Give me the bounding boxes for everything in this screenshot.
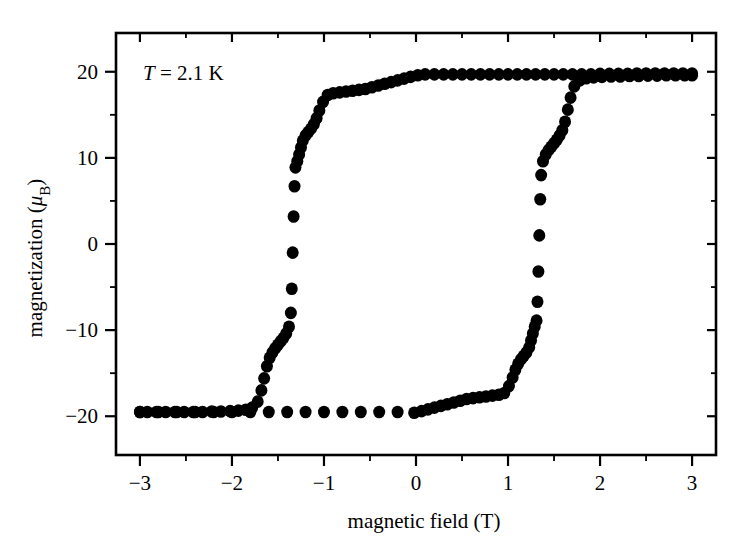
data-point	[171, 406, 183, 419]
data-point	[134, 406, 146, 419]
data-point	[535, 169, 547, 182]
data-point	[287, 246, 299, 259]
data-point	[263, 406, 275, 419]
data-point	[534, 193, 546, 206]
x-axis-title: magnetic field (T)	[348, 509, 501, 533]
temperature-annotation: T = 2.1 K	[143, 61, 224, 85]
data-series-0	[134, 67, 698, 418]
data-point	[300, 406, 312, 419]
x-tick-label: 0	[411, 471, 422, 495]
data-point	[318, 406, 330, 419]
data-point	[533, 229, 545, 242]
data-point	[392, 406, 404, 419]
x-tick-label: −1	[313, 471, 335, 495]
y-tick-label: −10	[65, 318, 98, 342]
data-point	[559, 115, 571, 128]
data-point	[288, 210, 300, 223]
x-axis-ticks	[140, 33, 692, 466]
magnetization-hysteresis-figure: −3−2−10123 −20−1001020 magnetic field (T…	[0, 0, 749, 546]
data-point	[355, 406, 367, 419]
y-tick-label: −20	[65, 404, 98, 428]
y-axis-ticks	[105, 72, 716, 416]
data-point	[152, 406, 164, 419]
data-point	[562, 103, 574, 116]
data-point	[336, 406, 348, 419]
data-point	[258, 372, 270, 385]
data-point	[565, 91, 577, 104]
x-tick-label: 2	[595, 471, 606, 495]
x-tick-label: 1	[503, 471, 514, 495]
data-point	[531, 314, 543, 327]
data-point	[532, 265, 544, 278]
data-point	[289, 180, 301, 193]
data-point	[189, 406, 201, 419]
x-tick-label: 3	[687, 471, 698, 495]
data-point	[289, 161, 301, 174]
data-point	[261, 360, 273, 373]
data-point	[281, 406, 293, 419]
plot-canvas: −3−2−10123 −20−1001020 magnetic field (T…	[0, 0, 749, 546]
data-point	[686, 69, 698, 82]
data-point	[244, 406, 256, 419]
data-point	[208, 406, 220, 419]
y-axis-tick-labels: −20−1001020	[65, 60, 98, 428]
x-tick-label: −2	[221, 471, 243, 495]
data-points-layer	[134, 67, 698, 419]
x-tick-label: −3	[129, 471, 151, 495]
data-point	[531, 295, 543, 308]
y-tick-label: 10	[77, 146, 98, 170]
data-point	[373, 406, 385, 419]
data-point	[286, 282, 298, 295]
data-series-1	[134, 69, 698, 419]
x-axis-tick-labels: −3−2−10123	[129, 471, 698, 495]
y-tick-label: 20	[77, 60, 98, 84]
data-point	[226, 406, 238, 419]
axis-frame	[116, 33, 716, 455]
data-point	[285, 307, 297, 320]
y-axis-title: magnetization (μB)	[23, 179, 53, 338]
data-point	[255, 384, 267, 397]
y-tick-label: 0	[88, 232, 99, 256]
